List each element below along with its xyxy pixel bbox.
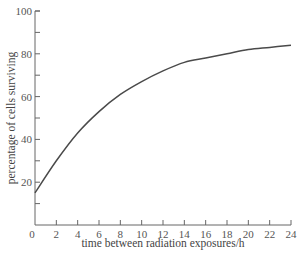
y-tick-label: 100	[16, 5, 33, 17]
y-axis-label: percentage of cells surviving	[5, 51, 18, 184]
x-tick-label: 4	[75, 228, 81, 240]
survival-curve	[35, 45, 291, 193]
x-axis-label: time between radiation exposures/h	[81, 237, 244, 250]
data-series	[35, 45, 291, 193]
x-tick-label: 24	[286, 228, 298, 240]
x-tick-label: 2	[54, 228, 60, 240]
x-tick-label: 0	[29, 228, 35, 240]
y-tick-label: 60	[21, 91, 33, 103]
y-tick-label: 20	[21, 176, 33, 188]
survival-chart: 20406080100 024681012141618202224 time b…	[0, 0, 302, 253]
y-tick-label: 80	[21, 48, 33, 60]
x-tick-label: 22	[264, 228, 275, 240]
y-tick-label: 40	[21, 133, 33, 145]
